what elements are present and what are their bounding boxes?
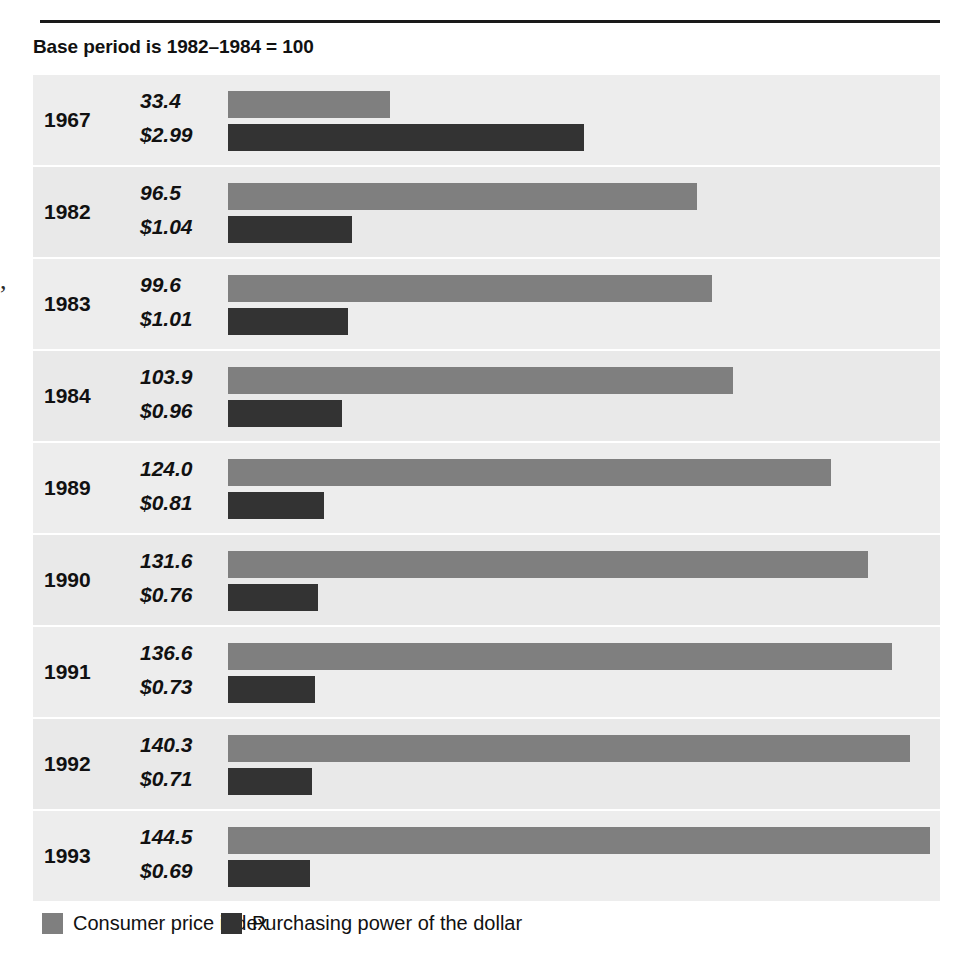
purchasing-power-bar [228, 308, 348, 335]
cpi-value-label: 136.6 [140, 641, 193, 665]
cpi-bar [228, 551, 868, 578]
legend-item-ppd: Purchasing power of the dollar [221, 912, 522, 935]
cpi-value-label: 33.4 [140, 89, 181, 113]
chart-row: 198296.5$1.04 [33, 167, 940, 257]
row-year-label: 1967 [44, 108, 91, 132]
cpi-bar [228, 643, 892, 670]
cpi-bar [228, 91, 390, 118]
chart-plot-area: 196733.4$2.99198296.5$1.04198399.6$1.011… [33, 75, 940, 900]
row-year-label: 1991 [44, 660, 91, 684]
purchasing-power-bar [228, 860, 310, 887]
purchasing-power-bar [228, 492, 324, 519]
cpi-bar [228, 735, 910, 762]
header-rule [40, 20, 940, 23]
cpi-value-label: 103.9 [140, 365, 193, 389]
cpi-value-label: 140.3 [140, 733, 193, 757]
chart-row: 1993144.5$0.69 [33, 811, 940, 901]
cpi-bar [228, 275, 712, 302]
cpi-bar [228, 367, 733, 394]
cpi-value-label: 131.6 [140, 549, 193, 573]
row-year-label: 1983 [44, 292, 91, 316]
row-year-label: 1990 [44, 568, 91, 592]
margin-ink-fragment: , [0, 268, 14, 294]
purchasing-power-bar [228, 400, 342, 427]
purchasing-power-value-label: $0.76 [140, 583, 193, 607]
row-year-label: 1982 [44, 200, 91, 224]
purchasing-power-bar [228, 216, 352, 243]
cpi-value-label: 96.5 [140, 181, 181, 205]
legend-swatch-icon [221, 913, 242, 934]
cpi-value-label: 99.6 [140, 273, 181, 297]
legend-label: Purchasing power of the dollar [252, 912, 522, 935]
purchasing-power-value-label: $0.96 [140, 399, 193, 423]
purchasing-power-value-label: $1.04 [140, 215, 193, 239]
purchasing-power-value-label: $0.71 [140, 767, 193, 791]
cpi-bar [228, 459, 831, 486]
purchasing-power-value-label: $1.01 [140, 307, 193, 331]
legend-swatch-icon [42, 913, 63, 934]
row-year-label: 1989 [44, 476, 91, 500]
chart-row: 1989124.0$0.81 [33, 443, 940, 533]
cpi-bar [228, 827, 930, 854]
chart-row: 1992140.3$0.71 [33, 719, 940, 809]
purchasing-power-bar [228, 584, 318, 611]
purchasing-power-value-label: $0.81 [140, 491, 193, 515]
row-year-label: 1984 [44, 384, 91, 408]
row-year-label: 1992 [44, 752, 91, 776]
chart-row: 1984103.9$0.96 [33, 351, 940, 441]
chart-row: 198399.6$1.01 [33, 259, 940, 349]
purchasing-power-bar [228, 676, 315, 703]
chart-legend: Consumer price indexPurchasing power of … [33, 912, 940, 952]
purchasing-power-value-label: $2.99 [140, 123, 193, 147]
purchasing-power-value-label: $0.69 [140, 859, 193, 883]
chart-row: 196733.4$2.99 [33, 75, 940, 165]
cpi-value-label: 124.0 [140, 457, 193, 481]
cpi-bar [228, 183, 697, 210]
purchasing-power-value-label: $0.73 [140, 675, 193, 699]
row-year-label: 1993 [44, 844, 91, 868]
chart-row: 1991136.6$0.73 [33, 627, 940, 717]
purchasing-power-bar [228, 124, 584, 151]
purchasing-power-bar [228, 768, 312, 795]
chart-row: 1990131.6$0.76 [33, 535, 940, 625]
base-period-note: Base period is 1982–1984 = 100 [33, 36, 314, 58]
cpi-value-label: 144.5 [140, 825, 193, 849]
